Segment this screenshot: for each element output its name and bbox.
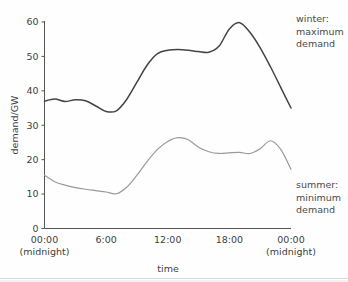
demand-vs-time-line-chart: 0102030405060 00:00(midnight)6:0012:0018…	[0, 0, 348, 282]
y-tick-label: 0	[32, 223, 38, 234]
x-tick-label: 00:00	[31, 234, 58, 245]
y-tick-label: 60	[26, 16, 38, 27]
chart-figure: 0102030405060 00:00(midnight)6:0012:0018…	[0, 0, 348, 282]
x-axis-ticks: 00:00(midnight)6:0012:0018:0000:00(midni…	[20, 234, 316, 257]
winter-annotation-line: demand	[296, 38, 335, 49]
y-tick-label: 20	[26, 154, 38, 165]
x-tick-label: 6:00	[95, 234, 116, 245]
winter-annotation-line: winter:	[296, 13, 329, 24]
x-axis-title: time	[157, 263, 179, 274]
y-axis-title: demand/GW	[9, 95, 20, 155]
footer-divider	[0, 278, 348, 279]
winter-demand-line	[45, 23, 292, 113]
y-tick-label: 40	[26, 85, 38, 96]
x-tick-sublabel: (midnight)	[266, 246, 316, 257]
summer-demand-line	[45, 138, 292, 194]
y-axis-ticks: 0102030405060	[26, 16, 44, 234]
y-tick-label: 50	[26, 51, 38, 62]
x-tick-label: 00:00	[277, 234, 304, 245]
summer-annotation-line: demand	[296, 204, 335, 215]
y-tick-label: 10	[26, 188, 38, 199]
summer-annotation-line: minimum	[296, 192, 341, 203]
chart-series-group	[45, 23, 292, 194]
chart-annotations: winter:maximumdemandsummer:minimumdemand	[296, 13, 344, 215]
y-tick-label: 30	[26, 120, 38, 131]
x-tick-label: 12:00	[154, 234, 181, 245]
chart-axes	[45, 21, 292, 229]
winter-annotation-line: maximum	[296, 26, 344, 37]
summer-annotation-line: summer:	[296, 179, 338, 190]
x-tick-label: 18:00	[216, 234, 243, 245]
x-tick-sublabel: (midnight)	[20, 246, 70, 257]
